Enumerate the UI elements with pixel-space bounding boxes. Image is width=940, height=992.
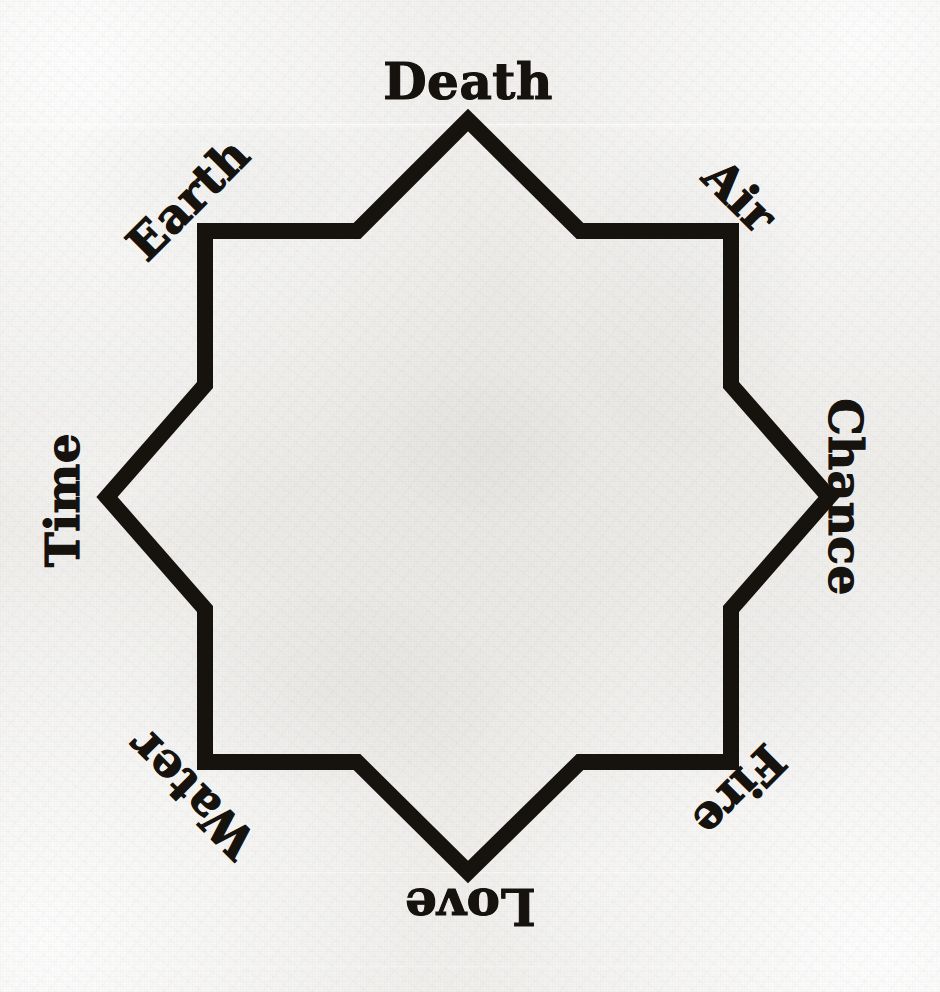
star-label-chance: Chance bbox=[822, 398, 869, 596]
octagram-outline bbox=[107, 120, 829, 872]
octagram-star-svg bbox=[0, 0, 940, 992]
star-label-love: Love bbox=[404, 881, 535, 931]
diagram-canvas: DeathAirChanceFireLoveWaterTimeEarth bbox=[0, 0, 940, 992]
star-label-time: Time bbox=[39, 433, 86, 567]
octagram-star bbox=[0, 0, 940, 992]
star-label-death: Death bbox=[383, 57, 553, 107]
